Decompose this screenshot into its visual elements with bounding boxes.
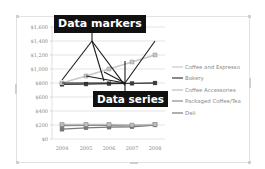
y-tick-label: $400 — [35, 108, 48, 114]
y-tick-label: $1,600 — [31, 24, 49, 30]
data-marker[interactable] — [84, 122, 88, 126]
y-tick-label: $1,400 — [31, 38, 49, 44]
data-marker[interactable] — [130, 123, 134, 127]
legend-label: Packaged Coffee/Tea — [185, 98, 241, 105]
data-marker[interactable] — [130, 81, 134, 85]
data-marker[interactable] — [107, 67, 111, 71]
legend-label: Coffee and Espresso — [185, 64, 240, 71]
legend-item[interactable]: Deli — [172, 110, 195, 116]
legend-label: Coffee Accessories — [185, 87, 236, 93]
data-marker[interactable] — [153, 122, 157, 126]
data-marker[interactable] — [60, 122, 64, 126]
legend: Coffee and EspressoBakeryCoffee Accessor… — [172, 64, 241, 116]
data-markers-callout: Data markers — [54, 15, 146, 33]
legend-label: Deli — [185, 110, 195, 116]
data-series-callout: Data series — [93, 91, 168, 107]
data-marker[interactable] — [107, 122, 111, 126]
legend-label: Bakery — [185, 75, 204, 82]
data-marker[interactable] — [107, 82, 111, 86]
y-tick-label: $600 — [35, 94, 48, 100]
data-marker[interactable] — [130, 60, 134, 64]
y-tick-label: $1,000 — [31, 66, 49, 72]
legend-item[interactable]: Coffee Accessories — [172, 87, 236, 93]
legend-item[interactable]: Coffee and Espresso — [172, 64, 240, 71]
y-tick-label: $200 — [35, 122, 48, 128]
x-axis: 20042005200620072008 — [56, 145, 162, 151]
x-tick-label: 2007 — [126, 145, 139, 151]
y-tick-label: $1,200 — [31, 52, 49, 58]
legend-item[interactable]: Bakery — [172, 75, 204, 82]
x-tick-label: 2006 — [103, 145, 116, 151]
x-tick-label: 2005 — [80, 145, 93, 151]
x-tick-label: 2004 — [56, 145, 69, 151]
y-tick-label: $0 — [42, 136, 48, 142]
data-marker[interactable] — [153, 81, 157, 85]
y-tick-label: $800 — [35, 80, 48, 86]
legend-item[interactable]: Packaged Coffee/Tea — [172, 98, 241, 105]
x-tick-label: 2008 — [149, 145, 162, 151]
y-axis: $0$200$400$600$800$1,000$1,200$1,400$1,6… — [31, 24, 53, 142]
data-marker[interactable] — [153, 53, 157, 57]
series-bakery[interactable] — [60, 81, 157, 86]
